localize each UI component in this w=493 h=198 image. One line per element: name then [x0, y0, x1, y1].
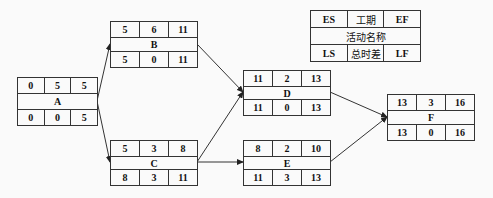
lf: 11: [168, 170, 197, 185]
duration: 2: [272, 71, 301, 86]
edge-e-f: [330, 117, 387, 162]
ef: 11: [168, 22, 197, 37]
duration: 3: [139, 141, 168, 156]
activity-node-d: 11 2 13 D 11 0 13: [243, 70, 331, 116]
edge-a-b: [97, 44, 110, 101]
network-diagram: ES 工期 EF 活动名称 LS 总时差 LF 0 5 5 A 0 0 5 5 …: [0, 0, 493, 198]
lf: 16: [445, 125, 474, 140]
lf: 13: [301, 170, 330, 185]
es: 0: [18, 78, 44, 93]
activity-name: E: [284, 158, 291, 169]
edge-a-c: [97, 101, 110, 162]
lf: 5: [70, 110, 97, 125]
activity-name: D: [283, 88, 290, 99]
ef: 13: [301, 71, 330, 86]
total-float: 3: [272, 170, 301, 185]
legend-total-float: 总时差: [347, 45, 384, 61]
legend-lf: LF: [383, 45, 420, 61]
duration: 5: [44, 78, 71, 93]
legend-es: ES: [311, 11, 347, 27]
activity-node-a: 0 5 5 A 0 0 5: [17, 77, 98, 126]
legend-duration: 工期: [347, 11, 384, 27]
es: 13: [388, 95, 416, 110]
ef: 10: [301, 141, 330, 156]
es: 5: [111, 22, 139, 37]
total-float: 0: [139, 52, 168, 67]
es: 8: [244, 141, 272, 156]
activity-name: F: [428, 112, 434, 123]
activity-node-e: 8 2 10 E 11 3 13: [243, 140, 331, 186]
ls: 11: [244, 170, 272, 185]
legend-node: ES 工期 EF 活动名称 LS 总时差 LF: [310, 10, 421, 62]
total-float: 3: [139, 170, 168, 185]
lf: 13: [301, 100, 330, 115]
ef: 16: [445, 95, 474, 110]
edge-d-f: [330, 92, 387, 117]
activity-node-f: 13 3 16 F 13 0 16: [387, 94, 475, 141]
activity-node-b: 5 6 11 B 5 0 11: [110, 21, 198, 68]
activity-name: A: [54, 96, 61, 107]
legend-ef: EF: [383, 11, 420, 27]
total-float: 0: [44, 110, 71, 125]
ef: 8: [168, 141, 197, 156]
es: 11: [244, 71, 272, 86]
edge-c-d: [197, 92, 243, 162]
ls: 8: [111, 170, 139, 185]
edge-b-d: [197, 44, 243, 92]
duration: 6: [139, 22, 168, 37]
ef: 5: [70, 78, 97, 93]
total-float: 0: [416, 125, 445, 140]
duration: 2: [272, 141, 301, 156]
activity-name: C: [150, 158, 157, 169]
ls: 5: [111, 52, 139, 67]
activity-name: B: [151, 39, 158, 50]
legend-activity-name: 活动名称: [346, 29, 386, 44]
ls: 11: [244, 100, 272, 115]
lf: 11: [168, 52, 197, 67]
duration: 3: [416, 95, 445, 110]
legend-ls: LS: [311, 45, 347, 61]
activity-node-c: 5 3 8 C 8 3 11: [110, 140, 198, 186]
ls: 0: [18, 110, 44, 125]
total-float: 0: [272, 100, 301, 115]
es: 5: [111, 141, 139, 156]
ls: 13: [388, 125, 416, 140]
